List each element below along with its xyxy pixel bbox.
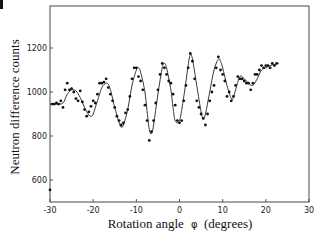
data-point bbox=[49, 189, 52, 192]
data-point bbox=[141, 88, 144, 91]
data-point bbox=[228, 91, 231, 94]
plot-frame bbox=[50, 6, 309, 202]
data-point bbox=[202, 117, 205, 120]
data-point bbox=[273, 64, 276, 67]
x-tick-label: 10 bbox=[218, 206, 228, 215]
data-point bbox=[66, 82, 69, 85]
data-point bbox=[96, 93, 99, 96]
y-tick-label: 800 bbox=[32, 132, 47, 141]
data-point bbox=[249, 88, 252, 91]
data-point bbox=[251, 82, 254, 85]
x-tick-label: -30 bbox=[43, 206, 56, 215]
data-point bbox=[165, 73, 168, 76]
data-point bbox=[219, 69, 222, 72]
data-point bbox=[221, 73, 224, 76]
data-point bbox=[118, 119, 121, 122]
data-point bbox=[267, 64, 270, 67]
data-point bbox=[144, 104, 147, 107]
data-point bbox=[92, 99, 95, 102]
data-point bbox=[258, 69, 261, 72]
data-point bbox=[271, 62, 274, 65]
data-point bbox=[187, 66, 190, 69]
data-point bbox=[180, 119, 183, 122]
data-point bbox=[79, 90, 82, 93]
data-point bbox=[178, 121, 181, 124]
data-point bbox=[148, 139, 151, 142]
y-tick-label: 1200 bbox=[27, 44, 47, 53]
data-point bbox=[124, 112, 127, 115]
fitted-curve bbox=[50, 54, 279, 134]
data-point bbox=[195, 99, 198, 102]
data-point bbox=[83, 108, 86, 111]
data-point bbox=[116, 115, 119, 118]
data-point bbox=[70, 87, 73, 90]
data-point bbox=[107, 86, 110, 89]
phi-symbol: φ bbox=[191, 219, 198, 230]
data-point bbox=[77, 99, 80, 102]
data-point bbox=[59, 99, 62, 102]
x-axis: -30-20-100102030 bbox=[43, 199, 314, 215]
data-point bbox=[247, 82, 250, 85]
x-tick-label: 0 bbox=[177, 206, 182, 215]
y-tick-label: 600 bbox=[32, 176, 47, 185]
data-point bbox=[111, 99, 114, 102]
data-point bbox=[193, 77, 196, 80]
data-point bbox=[232, 95, 235, 98]
data-point bbox=[243, 80, 246, 83]
data-point bbox=[169, 82, 172, 85]
data-point bbox=[62, 106, 65, 109]
y-axis-title: Neutron difference counts bbox=[7, 39, 22, 174]
x-axis-title-text: Rotation angle bbox=[108, 216, 184, 231]
data-point bbox=[200, 113, 203, 116]
x-axis-units: (degrees) bbox=[204, 216, 252, 231]
data-point bbox=[191, 60, 194, 63]
data-point bbox=[174, 104, 177, 107]
data-point bbox=[223, 80, 226, 83]
data-point bbox=[236, 75, 239, 78]
data-point bbox=[260, 64, 263, 67]
x-tick-label: 20 bbox=[261, 206, 271, 215]
data-point bbox=[234, 84, 237, 87]
data-point bbox=[128, 95, 131, 98]
data-point bbox=[161, 62, 164, 65]
data-point bbox=[113, 106, 116, 109]
data-point bbox=[206, 113, 209, 116]
data-point bbox=[157, 88, 160, 91]
chart: -30-20-100102030 60080010001200 Neutron … bbox=[0, 0, 325, 236]
data-point bbox=[208, 99, 211, 102]
data-point bbox=[90, 105, 93, 108]
data-point bbox=[262, 66, 265, 69]
x-tick-label: -20 bbox=[87, 206, 100, 215]
data-point bbox=[269, 66, 272, 69]
data-point bbox=[139, 80, 142, 83]
data-point bbox=[176, 119, 179, 122]
data-point bbox=[210, 91, 213, 94]
data-point bbox=[215, 66, 218, 69]
y-axis: 60080010001200 bbox=[27, 44, 53, 185]
data-point bbox=[230, 99, 233, 102]
data-point bbox=[146, 119, 149, 122]
data-point bbox=[172, 93, 175, 96]
data-point bbox=[64, 88, 67, 91]
data-point bbox=[217, 55, 220, 58]
data-point bbox=[103, 81, 106, 84]
data-points bbox=[49, 52, 278, 191]
data-point bbox=[204, 124, 207, 127]
data-point bbox=[87, 110, 90, 113]
data-point bbox=[163, 66, 166, 69]
data-point bbox=[81, 101, 84, 104]
data-point bbox=[131, 77, 134, 80]
data-point bbox=[154, 102, 157, 105]
data-point bbox=[182, 99, 185, 102]
data-point bbox=[126, 108, 129, 111]
data-point bbox=[275, 62, 278, 65]
data-point bbox=[185, 84, 188, 87]
data-point bbox=[105, 77, 108, 80]
data-point bbox=[75, 97, 78, 100]
data-point bbox=[167, 80, 170, 83]
data-point bbox=[213, 84, 216, 87]
data-point bbox=[72, 91, 75, 94]
data-point bbox=[189, 52, 192, 55]
data-point bbox=[85, 115, 88, 118]
data-point bbox=[137, 75, 140, 78]
